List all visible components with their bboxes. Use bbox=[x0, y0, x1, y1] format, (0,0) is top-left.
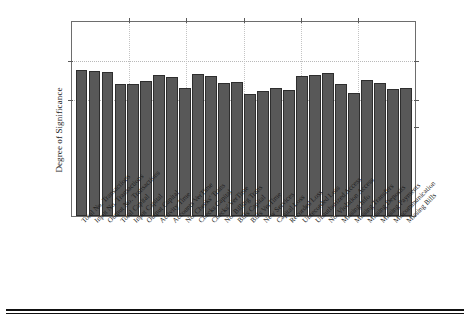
y-axis-title: Degree of Significance bbox=[52, 60, 66, 200]
bar bbox=[89, 71, 101, 216]
figure-bar-chart: Degree of Significance Total No. Transac… bbox=[0, 0, 470, 324]
footer-rule-upper bbox=[6, 309, 464, 311]
footer-rule-lower bbox=[6, 313, 464, 314]
bar bbox=[76, 70, 88, 216]
x-axis-tick-labels: Total No. TransactionsInput No. Transact… bbox=[71, 217, 416, 317]
